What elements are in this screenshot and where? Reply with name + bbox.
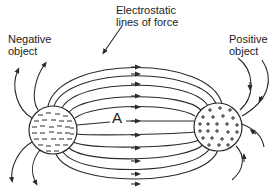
label-leader-line: [104, 26, 122, 52]
negative-object-sphere: [29, 106, 77, 154]
positive-object-sphere: [194, 103, 242, 151]
label-line-2: lines of force: [116, 16, 178, 28]
center-field-line: [77, 121, 194, 125]
positive-label-line-1: Positive: [229, 33, 268, 45]
upper-field-lines: [48, 67, 222, 118]
negative-label-line-1: Negative: [8, 33, 51, 45]
positive-label-line-2: object: [229, 45, 268, 57]
electric-field-diagram: Electrostatic lines of force Negative ob…: [0, 0, 276, 194]
negative-label-line-2: object: [8, 45, 51, 57]
field-lines-drawing: [0, 0, 276, 194]
lower-field-lines: [56, 132, 218, 184]
negative-object-label: Negative object: [8, 33, 51, 57]
point-a-label: A: [111, 110, 123, 126]
positive-object-label: Positive object: [229, 33, 268, 57]
lines-of-force-label: Electrostatic lines of force: [116, 4, 178, 28]
label-line-1: Electrostatic: [116, 4, 178, 16]
